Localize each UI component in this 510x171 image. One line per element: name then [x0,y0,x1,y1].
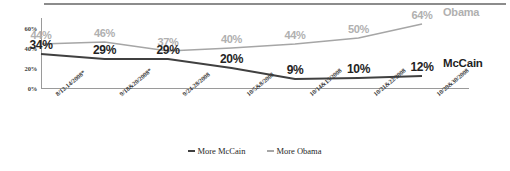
series-end-label-obama: Obama [443,6,479,18]
data-label-more-mccain: 29% [93,43,116,57]
data-label-more-obama: 64% [412,9,433,21]
plot-area: 0%20%40%60% 44%46%37%40%44%50%64%34%29%2… [41,18,422,88]
data-label-more-mccain: 9% [287,63,304,77]
legend-swatch-icon-obama [267,150,274,152]
legend-label-more-mccain: More McCain [197,146,245,156]
data-label-more-obama: 46% [94,27,115,39]
data-label-more-mccain: 10% [347,62,370,76]
legend-item-more-mccain[interactable]: More McCain [188,146,245,156]
data-label-more-mccain: 12% [411,60,434,74]
x-axis-tick-label: 10/29&30/2008 [435,67,470,98]
legend-label-more-obama: More Obama [276,146,321,156]
chart-legend: More McCain More Obama [0,146,510,156]
y-axis-tick-label: 0% [28,85,37,92]
data-label-more-mccain: 29% [157,43,180,57]
poll-trend-line-chart: 0%20%40%60% 44%46%37%40%44%50%64%34%29%2… [0,0,510,171]
data-label-more-obama: 44% [285,29,306,41]
data-label-more-obama: 40% [221,33,242,45]
data-label-more-mccain: 34% [30,38,53,52]
legend-swatch-icon-mccain [188,150,195,152]
legend-item-more-obama[interactable]: More Obama [267,146,321,156]
top-divider-rule [44,3,506,5]
y-axis-tick-label: 20% [25,65,37,72]
data-label-more-mccain: 20% [220,52,243,66]
data-label-more-obama: 50% [348,23,369,35]
